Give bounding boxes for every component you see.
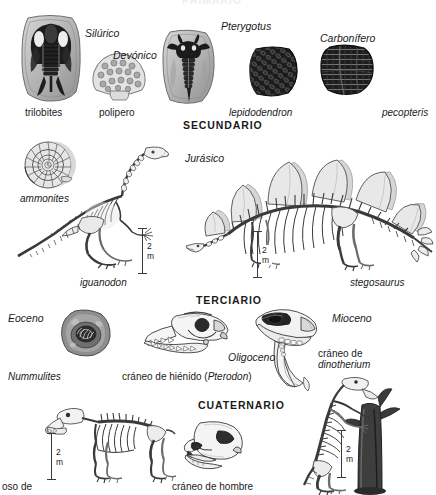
pterygotus-fossil-illustration	[158, 28, 220, 106]
specimen-label-craneo-de-hombre: cráneo de hombre	[172, 481, 253, 492]
scale-label: 2 m	[261, 245, 272, 265]
megaterio-skeleton-tree-illustration	[300, 375, 436, 495]
period-label-mioceno: Mioceno	[332, 313, 372, 325]
specimen-label-iguanodon: iguanodon	[80, 277, 127, 288]
specimen-label-stegosaurus: stegosaurus	[350, 277, 404, 288]
human-skull-illustration	[174, 417, 252, 471]
specimen-label-nummulites: Nummulites	[8, 371, 61, 382]
hienido-skull-illustration	[136, 308, 232, 360]
nummulites-fossil-illustration	[59, 308, 113, 360]
period-label-oligoceno: Oligoceno	[228, 352, 275, 364]
specimen-label-dinotherium-line1: cráneo de	[318, 348, 362, 359]
period-label-devonico: Devónico	[113, 50, 157, 62]
megaterio-scale-bar: 2 m	[340, 430, 356, 478]
period-label-carbonifero: Carbonífero	[320, 33, 375, 45]
period-label-silurico: Silúrico	[85, 28, 119, 40]
scale-label: 2 m	[55, 447, 66, 467]
stegosaurus-scale-bar: 2 m	[256, 231, 272, 278]
specimen-label-pterygotus: Pterygotus	[221, 21, 271, 33]
iguanodon-scale-bar: 2 m	[141, 228, 157, 274]
scale-label: 2 m	[345, 444, 356, 464]
hienido-label-prefix: cráneo de hiénido (	[122, 371, 208, 382]
pecopteris-fossil-illustration	[318, 42, 376, 98]
period-label-jurasico: Jurásico	[185, 153, 224, 165]
specimen-label-polipero: polipero	[99, 107, 135, 118]
specimen-label-pecopteris: pecopteris	[382, 107, 428, 118]
specimen-label-hienido: cráneo de hiénido (Pterodon)	[122, 371, 252, 382]
era-title-primario-cutoff: PRIMARIO	[182, 0, 242, 7]
era-title-secundario: SECUNDARIO	[183, 120, 263, 132]
scale-label: 2 m	[146, 241, 157, 261]
specimen-label-dinotherium-line2: dinotherium	[318, 359, 370, 370]
period-label-eoceno: Eoceno	[8, 313, 44, 325]
era-title-cuaternario: CUATERNARIO	[198, 400, 285, 412]
oso-scale-bar: 2 m	[50, 433, 66, 480]
trilobites-fossil-illustration	[18, 12, 84, 104]
lepidodendron-fossil-illustration	[247, 45, 300, 98]
specimen-label-trilobites: trilobites	[25, 107, 62, 118]
geological-eras-figure: PRIMARIO	[0, 0, 436, 495]
specimen-label-oso-de: oso de	[2, 481, 32, 492]
specimen-label-lepidodendron: lepidodendron	[229, 107, 292, 118]
hienido-genus: Pterodon	[208, 371, 249, 382]
